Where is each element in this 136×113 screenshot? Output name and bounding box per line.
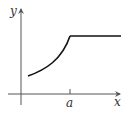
x-axis-label: x	[114, 95, 121, 109]
function-graph: y x a	[0, 0, 136, 113]
y-axis-label: y	[9, 4, 17, 18]
tick-label-a: a	[66, 96, 73, 110]
function-curve	[28, 36, 70, 76]
